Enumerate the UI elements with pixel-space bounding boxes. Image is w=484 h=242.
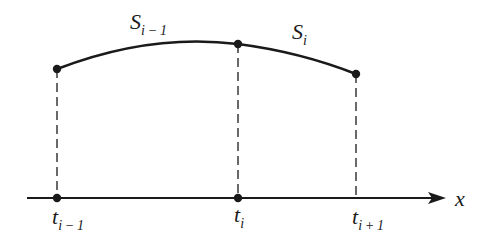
knot-label-t-i-plus-1: ti + 1 bbox=[352, 204, 384, 233]
x-axis-label: x bbox=[454, 186, 465, 211]
axis-point-t-i bbox=[234, 194, 242, 202]
curve-point-t-i bbox=[234, 40, 242, 48]
knot-label-t-i: ti bbox=[234, 202, 244, 231]
diagram-svg: Si − 1 Si ti − 1 ti ti + 1 x bbox=[0, 0, 484, 242]
segment-curve-s-i bbox=[238, 44, 356, 74]
curve-point-t-i-plus-1 bbox=[352, 70, 360, 78]
axis-point-t-i-minus-1 bbox=[53, 194, 61, 202]
segment-label-s-i-minus-1: Si − 1 bbox=[130, 9, 167, 38]
spline-segments-diagram: Si − 1 Si ti − 1 ti ti + 1 x bbox=[0, 0, 484, 242]
segment-label-s-i: Si bbox=[292, 19, 307, 48]
curve-point-t-i-minus-1 bbox=[53, 65, 61, 73]
knot-label-t-i-minus-1: ti − 1 bbox=[52, 204, 84, 233]
segment-curve-s-i-minus-1 bbox=[57, 41, 238, 69]
